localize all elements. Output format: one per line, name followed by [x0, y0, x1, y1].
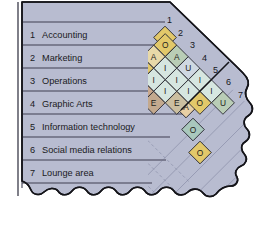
diagonal-number: 2 [178, 28, 183, 38]
department-number: 6 [30, 145, 35, 155]
diagonal-number: 5 [213, 65, 218, 75]
cell-letter: I [152, 75, 154, 85]
department-row: 6 Social media relations [30, 145, 132, 155]
diagonal-number: 6 [226, 77, 231, 87]
cell-letter: I [210, 86, 212, 96]
cell-letter: E [174, 98, 180, 108]
cell-letter: I [164, 86, 166, 96]
department-name: Graphic Arts [42, 99, 93, 109]
department-row: 5 Information technology [30, 122, 135, 132]
cell-letter: O [162, 40, 169, 50]
cell-letter: I [199, 75, 201, 85]
cell-letter: O [197, 98, 204, 108]
cell-letter: U [220, 98, 226, 108]
cell-letter: O [190, 125, 197, 135]
department-number: 2 [30, 53, 35, 63]
department-number: 3 [30, 76, 35, 86]
department-number: 1 [30, 30, 35, 40]
diagonal-number: 1 [167, 15, 172, 25]
department-name: Information technology [42, 122, 135, 132]
diagonal-number: 3 [190, 40, 195, 50]
rel-chart-svg: 1 Accounting 2 Marketing 3 Operations 4 … [0, 0, 268, 228]
department-number: 4 [30, 99, 35, 109]
department-name: Lounge area [42, 168, 94, 178]
department-name: Operations [42, 76, 87, 86]
rel-chart-figure: 1 Accounting 2 Marketing 3 Operations 4 … [0, 0, 268, 228]
cell-letter: I [176, 75, 178, 85]
cell-letter: A [174, 52, 180, 62]
department-number: 5 [30, 122, 35, 132]
cell-letter: U [185, 63, 191, 73]
cell-letter: I [187, 86, 189, 96]
cell-letter: I [164, 63, 166, 73]
diagonal-number: 7 [238, 90, 243, 100]
cell-letter: O [197, 148, 204, 158]
department-name: Marketing [42, 53, 82, 63]
cell-letter: A [151, 52, 157, 62]
department-name: Accounting [42, 30, 87, 40]
cell-letter: E [151, 98, 157, 108]
department-number: 7 [30, 168, 35, 178]
department-name: Social media relations [42, 145, 132, 155]
diagonal-number: 4 [202, 53, 207, 63]
